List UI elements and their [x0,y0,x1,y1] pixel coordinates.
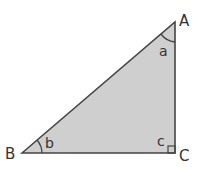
angle-label-a: a [159,43,168,59]
angle-label-b: b [45,135,54,151]
vertex-label-b: B [5,145,15,163]
angle-label-c: c [157,133,165,149]
triangle-diagram: A B C a b c [0,0,201,171]
vertex-label-c: C [179,147,189,165]
triangle-shape [22,22,175,153]
vertex-label-a: A [179,12,190,30]
